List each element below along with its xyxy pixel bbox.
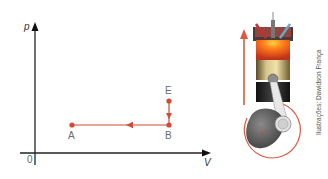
arrow-left-icon — [126, 122, 133, 128]
process-lines — [72, 101, 172, 128]
x-axis-arrow-icon — [202, 150, 211, 157]
spark-plug — [271, 20, 275, 38]
illustration-credit: Ilustrações: Dawidson França — [315, 49, 323, 135]
point-b — [166, 122, 171, 127]
origin-label: 0 — [27, 154, 33, 165]
y-axis-arrow-icon — [32, 22, 39, 31]
arrow-down-icon — [166, 113, 172, 119]
pv-diagram: p 0 V E B A — [0, 0, 328, 179]
y-axis-label: p — [23, 21, 30, 32]
arrow-up-icon — [240, 29, 248, 39]
point-e — [166, 98, 171, 103]
label-a: A — [68, 130, 75, 141]
point-a — [69, 122, 74, 127]
y-axis — [32, 22, 39, 165]
x-axis — [20, 150, 211, 157]
label-e: E — [165, 85, 172, 96]
label-b: B — [165, 130, 172, 141]
x-axis-label: V — [204, 157, 212, 168]
combustion-chamber — [256, 40, 290, 60]
engine-illustration — [240, 12, 300, 158]
